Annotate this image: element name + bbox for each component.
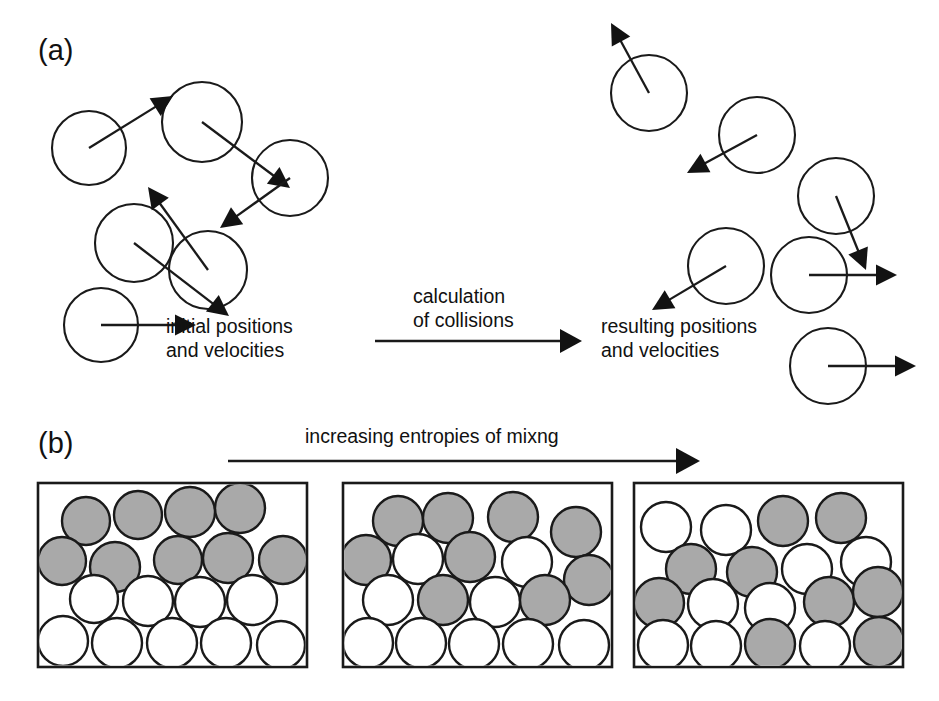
- initial-state-caption-line1: initial positions: [166, 315, 293, 337]
- sphere-gray-2-17: [854, 617, 904, 667]
- sphere-white-0-12: [227, 575, 277, 625]
- sphere-gray-0-8: [259, 536, 307, 584]
- initial-state-caption: initial positionsand velocities: [166, 315, 293, 361]
- sphere-gray-2-15: [745, 619, 795, 669]
- sphere-gray-1-6: [445, 532, 495, 582]
- sphere-white-0-15: [147, 618, 197, 668]
- collision-process-label-line1: calculation: [413, 285, 505, 307]
- sphere-white-2-13: [638, 620, 688, 670]
- sphere-gray-2-3: [816, 493, 866, 543]
- collision-process-label-line2: of collisions: [413, 309, 514, 331]
- velocity-arrowhead: [220, 207, 243, 228]
- sphere-white-1-15: [449, 619, 499, 669]
- mixing-box-box-mixed: [634, 483, 904, 671]
- transition-arrow: [375, 329, 582, 353]
- sphere-white-1-13: [343, 618, 393, 668]
- velocity-arrowhead: [895, 356, 916, 377]
- sphere-gray-2-11: [804, 577, 854, 627]
- sphere-white-2-14: [691, 621, 741, 671]
- sphere-gray-1-12: [520, 575, 570, 625]
- mixing-box-box-segregated: [38, 483, 307, 669]
- initial-state-caption-line2: and velocities: [166, 339, 284, 361]
- resulting-state-caption: resulting positionsand velocities: [601, 315, 757, 361]
- panel-b-label: (b): [38, 427, 73, 459]
- sphere-white-0-16: [201, 618, 251, 668]
- sphere-white-0-17: [257, 621, 305, 669]
- sphere-white-2-16: [800, 621, 850, 671]
- mixing-box-box-partial: [341, 483, 614, 670]
- sphere-white-0-13: [38, 616, 88, 666]
- resulting-state-caption-line1: resulting positions: [601, 315, 757, 337]
- sphere-gray-1-3: [551, 507, 601, 557]
- figure-root: (a)initial positionsand velocitiescalcul…: [0, 0, 939, 701]
- panel-a-label: (a): [38, 34, 73, 66]
- resulting-state-caption-line2: and velocities: [601, 339, 719, 361]
- sphere-white-0-9: [70, 575, 118, 623]
- entropy-direction-arrow: [228, 448, 700, 474]
- sphere-gray-0-2: [165, 487, 215, 537]
- sphere-gray-0-3: [215, 483, 265, 533]
- sphere-gray-2-12: [853, 567, 903, 617]
- sphere-gray-1-2: [488, 492, 538, 542]
- sphere-gray-0-1: [114, 491, 162, 539]
- sphere-white-1-16: [503, 619, 553, 669]
- box-contents-box-mixed: [634, 493, 904, 671]
- velocity-arrowhead: [876, 265, 897, 286]
- velocity-arrowhead: [148, 187, 169, 210]
- sphere-gray-2-2: [758, 496, 808, 546]
- sphere-white-1-14: [396, 618, 446, 668]
- collision-process-label: calculationof collisions: [413, 285, 514, 331]
- sphere-white-0-14: [92, 618, 142, 668]
- diagram-canvas: (a)initial positionsand velocitiescalcul…: [0, 0, 939, 701]
- entropy-arrowhead: [676, 448, 700, 474]
- panel-b: [38, 448, 904, 671]
- transition-arrowhead: [560, 329, 582, 353]
- sphere-white-1-17: [559, 620, 609, 670]
- sphere-gray-0-4: [38, 537, 86, 585]
- velocity-arrowhead: [652, 290, 675, 310]
- sphere-gray-1-8: [564, 555, 614, 605]
- entropy-header-label: increasing entropies of mixng: [305, 425, 559, 447]
